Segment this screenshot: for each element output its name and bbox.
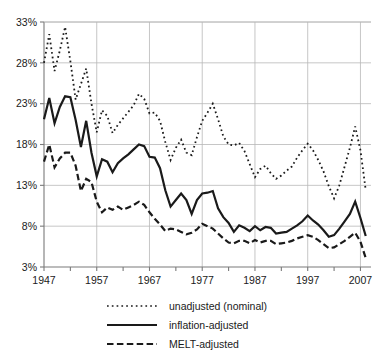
y-tick-label: 28%	[16, 57, 37, 69]
x-tick-label: 1947	[32, 274, 56, 286]
x-axis-tick-labels: 1947195719671977198719972007	[32, 274, 372, 286]
y-tick-label: 23%	[16, 97, 37, 109]
legend-item-inflation-adjusted: inflation-adjusted	[0, 315, 377, 334]
y-axis-tick-labels: 3%8%13%18%23%28%33%	[16, 16, 37, 273]
y-tick-label: 33%	[16, 16, 37, 28]
legend-swatch-dashed-icon	[104, 340, 160, 348]
x-tick-label: 2007	[349, 274, 373, 286]
series-line-dotted	[44, 27, 366, 199]
legend-label-inflation-adjusted: inflation-adjusted	[169, 319, 248, 331]
legend-item-unadjusted: unadjusted (nominal)	[0, 296, 377, 315]
series-line-dashed	[44, 145, 366, 259]
x-tick-label: 1977	[191, 274, 215, 286]
x-tick-label: 1997	[296, 274, 320, 286]
chart-figure: 3%8%13%18%23%28%33% 19471957196719771987…	[0, 0, 377, 357]
y-tick-label: 18%	[16, 138, 37, 150]
series-line-solid	[44, 96, 366, 236]
legend-swatch-dotted-icon	[104, 302, 160, 310]
legend-swatch-solid-icon	[104, 321, 160, 329]
x-tick-label: 1957	[85, 274, 109, 286]
line-chart-plot: 3%8%13%18%23%28%33% 19471957196719771987…	[0, 0, 377, 295]
legend-label-melt-adjusted: MELT-adjusted	[169, 338, 239, 350]
y-tick-label: 3%	[22, 261, 37, 273]
x-tick-label: 1987	[243, 274, 267, 286]
chart-legend: unadjusted (nominal) inflation-adjusted …	[0, 296, 377, 357]
chart-svg: 3%8%13%18%23%28%33% 19471957196719771987…	[0, 0, 377, 295]
data-series-layer	[44, 27, 366, 258]
legend-label-unadjusted: unadjusted (nominal)	[169, 300, 267, 312]
axis-tick-marks	[40, 22, 360, 271]
grid-lines	[44, 22, 371, 267]
x-tick-label: 1967	[138, 274, 162, 286]
y-tick-label: 13%	[16, 179, 37, 191]
legend-item-melt-adjusted: MELT-adjusted	[0, 334, 377, 353]
y-tick-label: 8%	[22, 220, 37, 232]
